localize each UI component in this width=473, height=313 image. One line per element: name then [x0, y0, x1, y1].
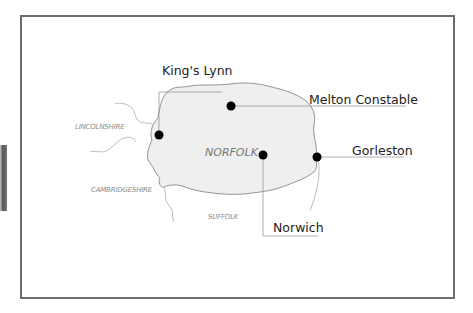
town-label-kings-lynn: King's Lynn: [162, 63, 233, 78]
marker-kings-lynn: [155, 131, 164, 140]
county-label-lincolnshire: LINCOLNSHIRE: [75, 123, 124, 131]
marker-melton-constable: [227, 102, 236, 111]
marker-gorleston: [313, 153, 322, 162]
town-label-melton-constable: Melton Constable: [309, 92, 418, 107]
town-label-norwich: Norwich: [273, 220, 324, 235]
norfolk-region: [147, 83, 316, 194]
county-label-suffolk: SUFFOLK: [208, 213, 238, 221]
region-label-norfolk: NORFOLK: [205, 146, 258, 159]
county-label-cambridgeshire: CAMBRIDGESHIRE: [91, 186, 152, 194]
town-label-gorleston: Gorleston: [352, 143, 413, 158]
marker-norwich: [259, 151, 268, 160]
